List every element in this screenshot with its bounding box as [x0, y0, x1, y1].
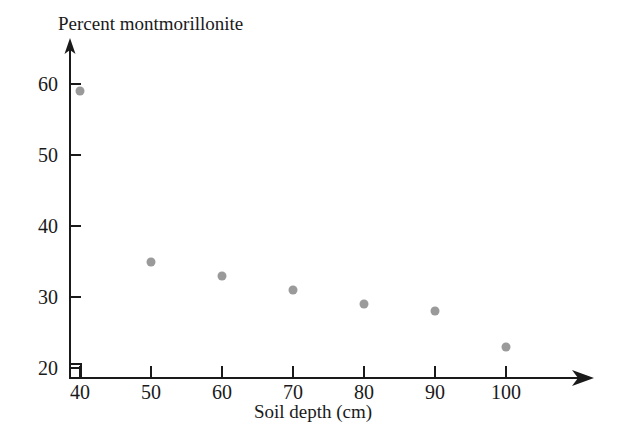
x-tick-label-40: 40	[50, 382, 110, 402]
y-tick-label-40: 40	[14, 216, 58, 236]
data-point	[502, 342, 511, 351]
x-tick-label-70: 70	[263, 382, 323, 402]
scatter-plot-figure: Percent montmorillonite 60 50 40 30 20 4…	[0, 0, 626, 435]
x-tick-label-90: 90	[405, 382, 465, 402]
x-tick-marks	[80, 366, 506, 378]
data-point	[360, 300, 369, 309]
x-tick-label-60: 60	[192, 382, 252, 402]
data-point	[431, 307, 440, 316]
y-tick-label-60: 60	[14, 74, 58, 94]
x-tick-label-50: 50	[121, 382, 181, 402]
data-point	[289, 285, 298, 294]
y-tick-label-50: 50	[14, 145, 58, 165]
x-axis-title: Soil depth (cm)	[0, 402, 626, 421]
x-tick-label-100: 100	[476, 382, 536, 402]
y-tick-label-20: 20	[14, 358, 58, 378]
y-tick-label-30: 30	[14, 287, 58, 307]
y-tick-marks	[70, 84, 81, 368]
data-point	[218, 271, 227, 280]
y-axis-title: Percent montmorillonite	[58, 14, 243, 33]
data-point	[147, 257, 156, 266]
data-point	[76, 87, 85, 96]
x-tick-label-80: 80	[334, 382, 394, 402]
plot-axes-svg	[0, 0, 626, 435]
